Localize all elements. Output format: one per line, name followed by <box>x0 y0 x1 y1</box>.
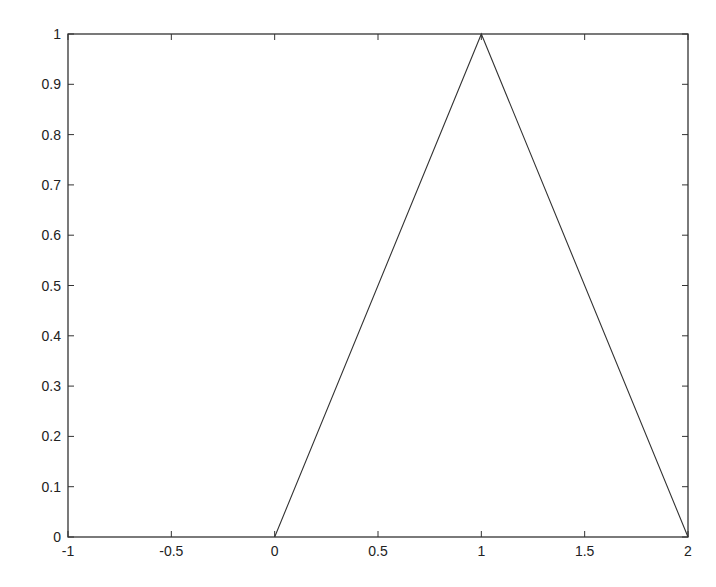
x-tick-label: 1.5 <box>575 543 595 559</box>
y-tick-label: 0.3 <box>42 378 62 394</box>
x-tick-label: 1 <box>477 543 485 559</box>
line-chart: -1-0.500.511.52 00.10.20.30.40.50.60.70.… <box>0 0 716 587</box>
y-tick-label: 0.4 <box>42 328 62 344</box>
x-axis: -1-0.500.511.52 <box>62 34 692 559</box>
x-tick-label: -0.5 <box>159 543 183 559</box>
x-tick-label: -1 <box>62 543 75 559</box>
y-tick-label: 0.1 <box>42 479 62 495</box>
series-line-triangle <box>275 34 688 537</box>
y-tick-label: 0.2 <box>42 428 62 444</box>
y-tick-label: 0.9 <box>42 76 62 92</box>
y-tick-label: 0.5 <box>42 278 62 294</box>
y-tick-label: 0 <box>53 529 61 545</box>
x-tick-label: 2 <box>684 543 692 559</box>
x-tick-label: 0.5 <box>368 543 388 559</box>
y-tick-label: 0.6 <box>42 227 62 243</box>
x-tick-label: 0 <box>271 543 279 559</box>
y-tick-label: 0.8 <box>42 127 62 143</box>
y-tick-label: 0.7 <box>42 177 62 193</box>
y-axis: 00.10.20.30.40.50.60.70.80.91 <box>42 26 688 545</box>
y-tick-label: 1 <box>53 26 61 42</box>
data-series <box>275 34 688 537</box>
